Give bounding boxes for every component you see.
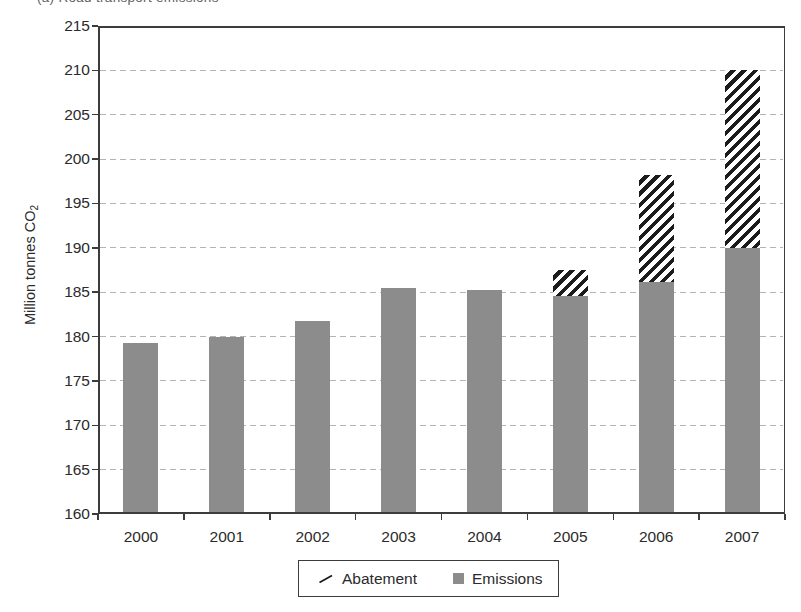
axis-right-border <box>784 26 786 514</box>
y-tick-label-190: 190 <box>36 239 90 257</box>
y-tick-175 <box>92 380 98 382</box>
y-axis-title-text: Million tonnes CO <box>22 211 38 325</box>
x-tick-6 <box>613 514 615 520</box>
bar-emissions-2007 <box>725 248 760 514</box>
x-tick-label-2006: 2006 <box>613 528 699 546</box>
x-tick-4 <box>441 514 443 520</box>
bar-abatement-2007 <box>725 70 760 248</box>
gridline-175 <box>100 380 783 381</box>
legend-item-emissions: Emissions <box>453 570 543 588</box>
x-tick-label-2004: 2004 <box>442 528 528 546</box>
x-tick-7 <box>698 514 700 520</box>
gray-square-icon <box>453 573 464 584</box>
y-tick-label-170: 170 <box>36 416 90 434</box>
bar-emissions-2005 <box>553 296 588 514</box>
bar-emissions-2003 <box>381 288 416 514</box>
y-tick-185 <box>92 291 98 293</box>
y-tick-label-195: 195 <box>36 194 90 212</box>
bar-emissions-2000 <box>123 343 158 514</box>
y-tick-210 <box>92 70 98 72</box>
y-tick-200 <box>92 158 98 160</box>
plot-area: 2000200120022003200420052006200716016517… <box>98 26 785 514</box>
figure-caption: (a) Road transport emissions <box>37 0 377 5</box>
diagonal-line-icon <box>318 573 334 585</box>
bar-abatement-2005 <box>553 270 588 296</box>
x-tick-label-2005: 2005 <box>527 528 613 546</box>
gridline-190 <box>100 247 783 248</box>
gridline-195 <box>100 203 783 204</box>
gridline-185 <box>100 292 783 293</box>
legend-item-abatement: Abatement <box>318 570 417 588</box>
x-tick-label-2001: 2001 <box>184 528 270 546</box>
gridline-180 <box>100 336 783 337</box>
y-tick-label-185: 185 <box>36 283 90 301</box>
legend-label-emissions: Emissions <box>472 570 543 588</box>
y-axis-title: Million tonnes CO2 <box>22 205 41 325</box>
gridline-200 <box>100 159 783 160</box>
legend: Abatement Emissions <box>298 560 559 597</box>
y-tick-180 <box>92 336 98 338</box>
x-tick-label-2003: 2003 <box>356 528 442 546</box>
bar-emissions-2004 <box>467 290 502 514</box>
x-tick-2 <box>269 514 271 520</box>
gridline-205 <box>100 114 783 115</box>
x-tick-label-2000: 2000 <box>98 528 184 546</box>
axis-top-border <box>98 26 785 28</box>
x-tick-0 <box>97 514 99 520</box>
bar-emissions-2001 <box>209 337 244 514</box>
y-tick-label-180: 180 <box>36 328 90 346</box>
legend-label-abatement: Abatement <box>342 570 417 588</box>
y-tick-165 <box>92 469 98 471</box>
gridline-170 <box>100 425 783 426</box>
y-tick-label-175: 175 <box>36 372 90 390</box>
gridline-210 <box>100 70 783 71</box>
y-tick-215 <box>92 25 98 27</box>
y-tick-190 <box>92 247 98 249</box>
y-axis-line <box>98 26 100 514</box>
bar-emissions-2006 <box>639 282 674 514</box>
x-tick-1 <box>183 514 185 520</box>
y-tick-label-215: 215 <box>36 17 90 35</box>
x-tick-5 <box>527 514 529 520</box>
y-tick-195 <box>92 203 98 205</box>
y-tick-label-165: 165 <box>36 461 90 479</box>
bar-emissions-2002 <box>295 321 330 514</box>
x-tick-label-2002: 2002 <box>270 528 356 546</box>
bar-abatement-2006 <box>639 175 674 282</box>
gridline-165 <box>100 469 783 470</box>
y-tick-label-200: 200 <box>36 150 90 168</box>
x-tick-8 <box>784 514 786 520</box>
caption-clip: (a) Road transport emissions <box>37 0 377 7</box>
x-tick-label-2007: 2007 <box>699 528 785 546</box>
page: { "caption": "(a) Road transport emissio… <box>0 0 801 612</box>
y-tick-label-205: 205 <box>36 106 90 124</box>
y-tick-205 <box>92 114 98 116</box>
y-tick-label-160: 160 <box>36 505 90 523</box>
y-tick-170 <box>92 425 98 427</box>
x-tick-3 <box>355 514 357 520</box>
y-tick-label-210: 210 <box>36 61 90 79</box>
